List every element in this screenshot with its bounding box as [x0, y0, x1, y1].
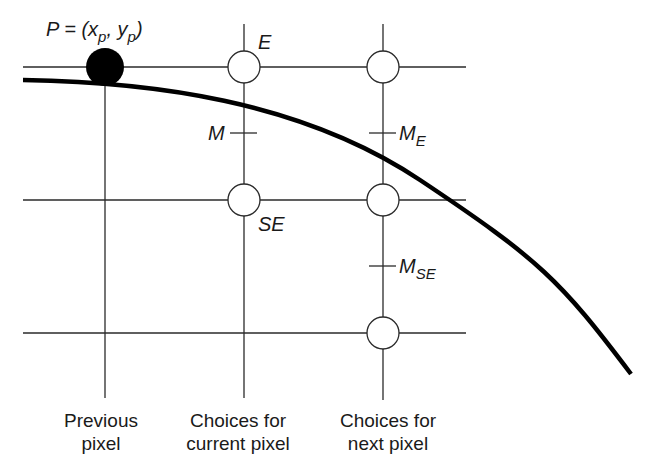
caption-next-line1: Choices for [340, 410, 437, 431]
label-m: M [208, 122, 225, 144]
next-pixel-se [367, 184, 399, 216]
caption-current-line2: current pixel [186, 433, 290, 454]
label-mse: MSE [399, 255, 437, 282]
point-p-label: P = (xp, yp) [46, 18, 143, 45]
label-se: SE [258, 213, 285, 235]
previous-pixel-filled [86, 48, 124, 86]
label-me: ME [399, 122, 427, 149]
label-e: E [258, 31, 272, 53]
circle-arc-curve [23, 80, 631, 374]
diagram-canvas: P = (xp, yp) E SE M ME MSE Previous pixe… [0, 0, 651, 472]
next-pixel-se-se [367, 317, 399, 349]
pixel-e [228, 51, 260, 83]
caption-current-line1: Choices for [190, 410, 287, 431]
caption-previous-line2: pixel [81, 433, 120, 454]
caption-previous-line1: Previous [64, 410, 138, 431]
captions: Previous pixel Choices for current pixel… [64, 410, 437, 454]
next-pixel-e [367, 51, 399, 83]
pixel-se [228, 184, 260, 216]
caption-next-line2: next pixel [348, 433, 428, 454]
